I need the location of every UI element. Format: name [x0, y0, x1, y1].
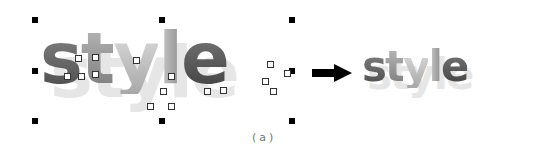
node[interactable] — [92, 54, 99, 61]
handle-top-right[interactable] — [289, 17, 295, 23]
figure-caption: (a) — [252, 131, 276, 144]
handle-bottom-left[interactable] — [32, 118, 38, 124]
node[interactable] — [64, 73, 71, 80]
node[interactable] — [168, 73, 175, 80]
letter-l: l — [158, 22, 181, 94]
handle-bottom-right[interactable] — [289, 118, 295, 124]
node[interactable] — [270, 88, 277, 95]
word-after-result: style — [362, 46, 467, 88]
node[interactable] — [267, 61, 274, 68]
letter-y: y — [403, 46, 428, 88]
node[interactable] — [147, 103, 154, 110]
node[interactable] — [262, 78, 269, 85]
letter-s: s — [362, 46, 385, 88]
letter-e: e — [441, 46, 468, 88]
node[interactable] — [92, 71, 99, 78]
node[interactable] — [75, 55, 82, 62]
node[interactable] — [204, 88, 211, 95]
node[interactable] — [78, 73, 85, 80]
node[interactable] — [133, 57, 140, 64]
node[interactable] — [220, 87, 227, 94]
arrow-right-icon — [312, 64, 352, 82]
node[interactable] — [160, 88, 167, 95]
node[interactable] — [284, 70, 291, 77]
handle-bottom-center[interactable] — [159, 118, 165, 124]
letter-l: l — [428, 46, 440, 88]
handle-top-left[interactable] — [32, 17, 38, 23]
letter-e: e — [181, 22, 228, 94]
handle-middle-left[interactable] — [32, 68, 38, 74]
node[interactable] — [168, 103, 175, 110]
letter-t: t — [385, 46, 403, 88]
